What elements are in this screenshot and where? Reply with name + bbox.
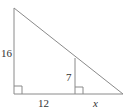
triangle-figure <box>0 0 132 111</box>
triangle-diagram: 16 7 12 x <box>0 0 132 111</box>
right-angle-marker-outer <box>14 86 22 94</box>
label-inner-height: 7 <box>66 72 72 83</box>
label-right-base-variable: x <box>93 98 98 109</box>
right-angle-marker-inner <box>75 87 83 94</box>
label-left-base: 12 <box>38 98 49 109</box>
label-outer-height: 16 <box>1 48 12 59</box>
